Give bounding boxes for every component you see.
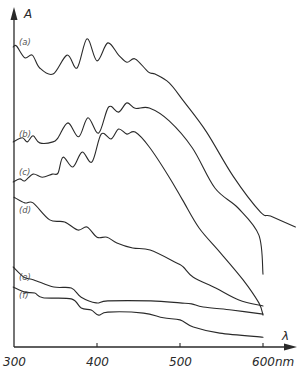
curves bbox=[13, 39, 295, 337]
series-label-e: (e) bbox=[19, 272, 31, 282]
y-axis-arrow-icon bbox=[11, 7, 18, 20]
series-label-d: (d) bbox=[19, 205, 31, 215]
x-axis-arrow-icon bbox=[284, 344, 297, 351]
series-line-d bbox=[14, 197, 263, 306]
x-tick-label-500: 500 bbox=[169, 355, 192, 369]
series-line-e bbox=[13, 267, 263, 314]
x-tick-label-300: 300 bbox=[3, 355, 26, 369]
y-axis-label: A bbox=[23, 7, 32, 21]
x-tick-label-600: 600nm bbox=[252, 355, 294, 369]
series-line-c bbox=[13, 129, 263, 315]
curve-labels: (a)(b)(c)(d)(e)(f) bbox=[19, 37, 31, 300]
x-tick-label-400: 400 bbox=[86, 355, 109, 369]
series-line-f bbox=[13, 287, 263, 337]
series-label-b: (b) bbox=[19, 129, 31, 139]
chart: 300400500600nm λ A (a)(b)(c)(d)(e)(f) bbox=[0, 0, 303, 374]
x-axis-label: λ bbox=[281, 329, 289, 343]
series-label-c: (c) bbox=[19, 167, 30, 177]
x-axis: 300400500600nm λ bbox=[3, 329, 297, 369]
series-label-a: (a) bbox=[19, 37, 31, 47]
series-label-f: (f) bbox=[19, 290, 29, 300]
series-line-a bbox=[13, 39, 295, 227]
